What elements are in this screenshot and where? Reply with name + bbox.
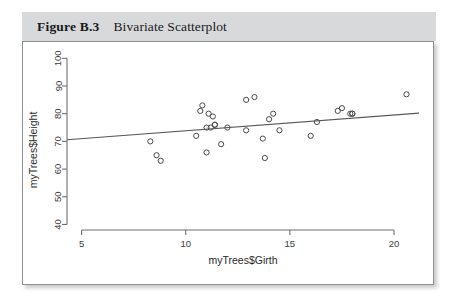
y-tick-label: 90 — [53, 81, 64, 92]
scatter-point — [404, 92, 409, 97]
x-tick-label: 20 — [389, 238, 400, 249]
x-tick-label: 10 — [180, 238, 191, 249]
regression-line — [67, 113, 419, 140]
scatter-point — [148, 139, 153, 144]
scatter-point — [219, 142, 224, 147]
x-tick-label: 5 — [79, 238, 84, 249]
scatter-point — [277, 128, 282, 133]
plot-panel: 405060708090100 5101520 myTrees$Height m… — [22, 41, 434, 285]
scatter-point — [158, 158, 163, 163]
scatter-point — [212, 122, 217, 127]
y-tick-label: 100 — [53, 50, 64, 66]
figure-title: Bivariate Scatterplot — [114, 19, 227, 34]
scatter-point — [210, 114, 215, 119]
figure-caption-bar: Figure B.3Bivariate Scatterplot — [22, 12, 436, 41]
scatter-point — [252, 94, 257, 99]
x-axis-title: myTrees$Girth — [208, 254, 277, 266]
y-tick-label: 50 — [53, 191, 64, 202]
regression-line-path — [67, 113, 419, 140]
figure-container: Figure B.3Bivariate Scatterplot 40506070… — [22, 12, 436, 288]
x-axis: 5101520 — [79, 230, 399, 249]
y-tick-label: 40 — [53, 219, 64, 230]
scatter-point — [194, 133, 199, 138]
y-tick-label: 80 — [53, 108, 64, 119]
figure-number: Figure B.3 — [37, 19, 100, 34]
scatter-point — [308, 133, 313, 138]
x-tick-label: 15 — [285, 238, 296, 249]
scatter-point — [244, 128, 249, 133]
y-tick-label: 60 — [53, 164, 64, 175]
scatter-point — [260, 136, 265, 141]
scatter-point — [154, 153, 159, 158]
scatter-point — [200, 103, 205, 108]
scatter-point — [198, 108, 203, 113]
data-points — [148, 92, 409, 164]
scatter-point — [266, 117, 271, 122]
scatter-point — [244, 97, 249, 102]
scatter-point — [339, 106, 344, 111]
scatter-point — [271, 111, 276, 116]
y-axis-title: myTrees$Height — [27, 112, 39, 189]
figure-caption: Figure B.3Bivariate Scatterplot — [37, 17, 227, 35]
scatter-point — [204, 150, 209, 155]
y-tick-label: 70 — [53, 136, 64, 147]
scatter-point — [262, 155, 267, 160]
y-axis: 405060708090100 — [53, 50, 68, 229]
scatterplot-svg: 405060708090100 5101520 myTrees$Height m… — [23, 42, 433, 284]
